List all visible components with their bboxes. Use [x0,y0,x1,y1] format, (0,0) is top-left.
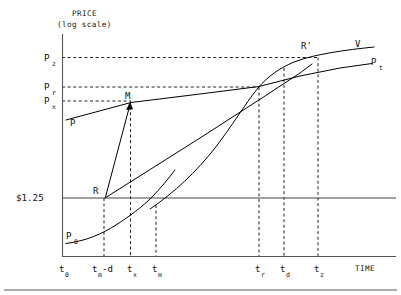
x-tick-tz-base: t [314,264,319,274]
x-tick-label-td: t d [280,264,290,279]
x-tick-tr-base: t [255,264,260,274]
x-tick-tz-sub: z [320,271,324,279]
series-p0-curve [66,170,175,244]
x-tick-tm-base: t [152,264,157,274]
y-tick-p0-base: P [66,230,72,241]
x-tick-tx-base: t [127,264,132,274]
x-tick-tm-d-suffix: -d [102,264,113,274]
y-tick-label-1-25: $1.25 [16,192,44,203]
series-v-curve [150,47,374,209]
curve-label-m: M [125,91,131,101]
x-axis-title: TIME [355,264,375,273]
curve-label-p: P [70,118,76,128]
series-r-to-m-arrow-shaft [106,105,131,198]
y-tick-pr-base: P [44,81,50,92]
x-tick-label-tr: t r [255,264,265,279]
x-tick-t0-sub: 0 [65,271,69,279]
y-tick-label-px: P x [44,95,56,111]
x-tick-t0-base: t [59,264,64,274]
curve-label-r: R [93,186,99,196]
y-tick-p0-sub: 0 [74,238,78,246]
x-tick-label-tx: t x [127,264,137,279]
x-tick-td-base: t [280,264,285,274]
figure-container: PRICE (log scale) P z P r P x $1.25 P 0 … [0,0,401,295]
y-tick-label-pz: P z [44,52,56,68]
x-tick-label-tm: t m [152,264,162,279]
x-tick-tm-sub: m [158,271,162,279]
x-tick-label-tm-d: t m -d [92,264,113,279]
curve-label-pt-sub: t [379,64,383,72]
x-tick-tr-sub: r [261,271,265,279]
curve-label-pt-base: P [371,57,377,67]
series-r-prime-ray [105,64,312,198]
price-time-diagram: PRICE (log scale) P z P r P x $1.25 P 0 … [0,0,401,295]
curve-label-v: V [355,39,361,49]
y-tick-px-base: P [44,95,50,106]
y-tick-pr-sub: r [52,89,56,97]
x-tick-label-tz: t z [314,264,324,279]
x-tick-td-sub: d [286,271,290,279]
series-p-line [66,64,372,121]
y-axis-title-line1: PRICE [72,9,97,18]
x-tick-label-t0: t 0 [59,264,69,279]
x-tick-tx-sub: x [133,271,137,279]
x-tick-tm-d-base: t [92,264,97,274]
y-tick-pz-base: P [44,52,50,63]
y-axis-title-line2: (log scale) [57,20,112,29]
curve-label-r-prime: R' [301,41,312,51]
y-tick-pz-sub: z [52,60,56,68]
y-tick-px-sub: x [52,103,56,111]
curve-label-pt: P t [371,57,383,72]
